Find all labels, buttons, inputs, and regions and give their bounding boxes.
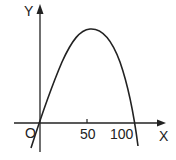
x-axis-label: X: [159, 129, 168, 143]
y-axis-label: Y: [24, 4, 33, 18]
tick-label-50: 50: [80, 127, 96, 141]
tick-label-100: 100: [110, 127, 133, 141]
x-axis-arrow-icon: [157, 120, 166, 127]
y-axis-arrow-icon: [37, 4, 44, 14]
origin-label: O: [25, 126, 36, 140]
